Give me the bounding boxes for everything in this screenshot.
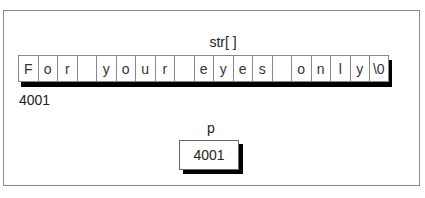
array-cell: e: [233, 55, 253, 82]
array-cell: r: [57, 55, 77, 82]
array-cell: y: [213, 55, 233, 82]
array-cell: n: [311, 55, 331, 82]
array-cell: [272, 55, 292, 82]
array-cell: r: [155, 55, 175, 82]
array-cell: F: [18, 55, 38, 82]
array-cell: y: [96, 55, 116, 82]
array-base-address: 4001: [19, 92, 50, 108]
array-cell: e: [194, 55, 214, 82]
pointer-value: 4001: [193, 147, 224, 163]
array-label: str[ ]: [198, 34, 248, 50]
array-cell: s: [252, 55, 272, 82]
pointer-box: 4001: [179, 140, 239, 170]
array-cell: o: [116, 55, 136, 82]
array-cell: l: [330, 55, 350, 82]
array-cell: u: [135, 55, 155, 82]
array-cell: o: [38, 55, 58, 82]
array-cell: y: [350, 55, 370, 82]
array-cell: o: [291, 55, 311, 82]
array-cell: \0: [369, 55, 389, 82]
char-array: Foryoureyesonly\0: [18, 55, 389, 82]
array-cell: [174, 55, 194, 82]
array-cell: [77, 55, 97, 82]
pointer-label: p: [196, 120, 226, 136]
